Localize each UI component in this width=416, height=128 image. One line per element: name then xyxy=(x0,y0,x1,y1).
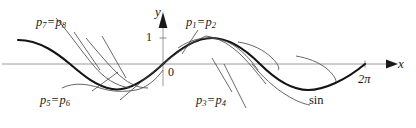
approx-curve-descending xyxy=(252,64,310,105)
x-axis-arrowhead xyxy=(386,60,398,69)
leader-line-p34-a xyxy=(212,58,232,92)
label-p12-text: p1=p2 xyxy=(186,15,216,29)
label-p78-text: p7=p8 xyxy=(36,15,66,29)
x-tick-label-twopi: 2π xyxy=(358,73,371,86)
y-tick-label-one: 1 xyxy=(146,31,152,43)
label-p3-equals-p4: p3=p4 xyxy=(196,94,226,107)
label-p34-text: p3=p4 xyxy=(196,93,226,107)
x-axis-label: x xyxy=(398,57,404,70)
leader-line-p78-b xyxy=(102,36,126,78)
label-p56-text: p5=p6 xyxy=(40,93,70,107)
label-p5-equals-p6: p5=p6 xyxy=(40,94,70,107)
label-p7-equals-p8: p7=p8 xyxy=(36,16,66,29)
leader-line-p34-b xyxy=(224,64,246,108)
approx-curve-far-right xyxy=(296,56,336,82)
label-p1-equals-p2: p1=p2 xyxy=(186,16,216,29)
approx-curve-right-tail xyxy=(238,42,279,70)
sine-curve-label: sin xyxy=(309,94,324,107)
approx-curve-left-a xyxy=(56,18,130,88)
y-axis-label: y xyxy=(155,5,161,18)
origin-label: 0 xyxy=(168,66,174,78)
